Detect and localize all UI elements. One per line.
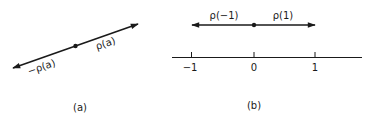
label-rho-one: ρ(1) bbox=[273, 10, 294, 21]
label-rho-minus-one: ρ(−1) bbox=[210, 10, 239, 21]
origin-dot-b bbox=[252, 23, 256, 27]
origin-dot-a bbox=[73, 44, 77, 48]
panel-a: −ρ(a) ρ(a) (a) bbox=[13, 24, 138, 113]
tick-label-one: 1 bbox=[312, 62, 318, 73]
caption-a: (a) bbox=[73, 102, 87, 113]
label-negative-rho-a: −ρ(a) bbox=[26, 57, 57, 77]
tick-label-minus-one: −1 bbox=[183, 62, 198, 73]
panel-b: ρ(−1) ρ(1) −1 0 1 (b) bbox=[172, 10, 362, 111]
caption-b: (b) bbox=[247, 100, 261, 111]
figure-canvas: −ρ(a) ρ(a) (a) ρ(−1) ρ(1) −1 0 1 (b) bbox=[0, 0, 374, 119]
tick-label-zero: 0 bbox=[251, 62, 257, 73]
